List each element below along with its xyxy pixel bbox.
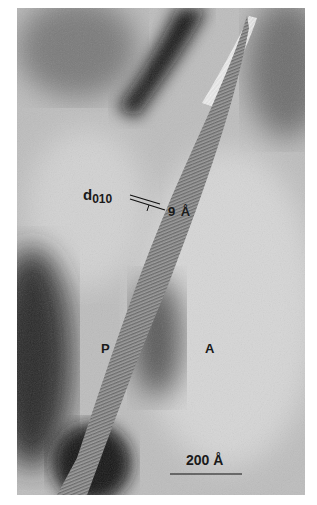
spacing-index: 010 — [92, 192, 112, 206]
lattice-spacing-label: d010 — [83, 186, 112, 206]
phase-a-label: A — [205, 341, 214, 356]
spacing-value-label: 9 Å — [168, 204, 191, 219]
scale-bar-label: 200 Å — [186, 452, 223, 468]
micrograph-image — [17, 8, 305, 495]
spacing-symbol: d — [83, 186, 92, 203]
phase-p-label: P — [101, 341, 110, 356]
